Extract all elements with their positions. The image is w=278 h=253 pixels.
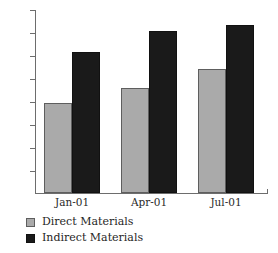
bar-indirect-apr-01 bbox=[149, 31, 177, 193]
legend-item-direct-materials: Direct Materials bbox=[26, 214, 143, 230]
bar-chart: 80% 70% 60% 50% 40% 30% 20% 10% 0% Jan-0… bbox=[0, 0, 278, 253]
legend-item-indirect-materials: Indirect Materials bbox=[26, 230, 143, 246]
bar-indirect-jul-01 bbox=[226, 25, 254, 193]
x-axis-label-jan-01: Jan-01 bbox=[44, 196, 100, 208]
legend-label-direct-materials: Direct Materials bbox=[42, 216, 133, 228]
bar-indirect-jan-01 bbox=[72, 52, 100, 193]
legend-swatch-direct-icon bbox=[26, 218, 35, 227]
x-axis-label-apr-01: Apr-01 bbox=[121, 196, 177, 208]
bar-direct-apr-01 bbox=[121, 88, 149, 193]
legend-label-indirect-materials: Indirect Materials bbox=[42, 232, 143, 244]
x-axis-line bbox=[35, 193, 268, 194]
bars-layer bbox=[36, 10, 268, 193]
bar-direct-jul-01 bbox=[198, 69, 226, 193]
bar-direct-jan-01 bbox=[44, 103, 72, 193]
x-axis-label-jul-01: Jul-01 bbox=[198, 196, 254, 208]
legend-swatch-indirect-icon bbox=[26, 234, 35, 243]
chart-legend: Direct Materials Indirect Materials bbox=[26, 214, 143, 246]
